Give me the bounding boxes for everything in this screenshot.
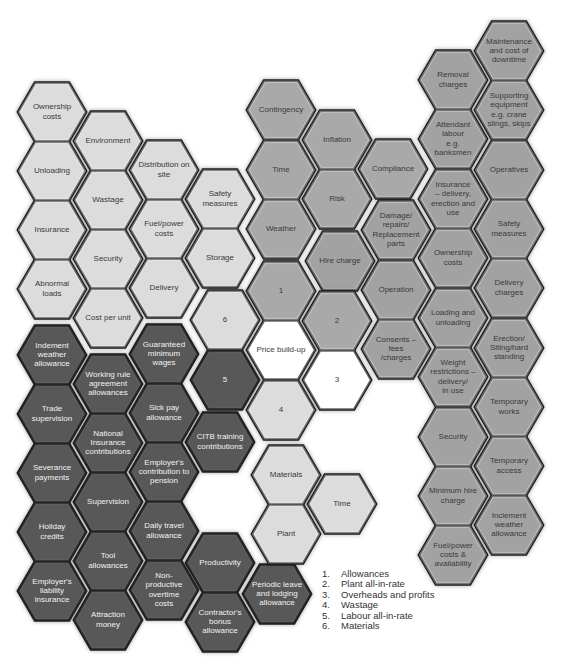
hex-label: Productivity (199, 558, 240, 567)
hex-label: Supervision (87, 497, 129, 506)
hex-label: Compliance (372, 164, 415, 173)
hex-label: Supportingequipmente.g. craneslings, ski… (487, 91, 530, 128)
hex-label: Time (333, 499, 351, 508)
hex-label: 1 (279, 286, 284, 295)
hex-label: Holidaycredits (39, 523, 66, 541)
hex-label: Plant (277, 529, 296, 538)
hex-layer: OwnershipcostsEnvironmentDistribution on… (16, 20, 544, 653)
hex-label: Materials (270, 470, 302, 479)
hex-label: Inclementweatherallowance (491, 511, 527, 538)
hex-label: Severancepayments (33, 464, 72, 482)
hex-label: Loading andunloading (431, 309, 475, 327)
hex-label: Time (272, 165, 290, 174)
hex-label: Storage (206, 253, 235, 262)
hex-label: Security (439, 432, 468, 441)
hex-label: 3 (335, 375, 340, 384)
hex-label: CITB trainingcontributions (197, 433, 244, 451)
hex-label: Daily travelallowance (144, 522, 184, 540)
hex-label: 2 (335, 316, 340, 325)
hex-label: Deliverycharges (495, 279, 524, 297)
hex-label: Risk (329, 194, 346, 203)
hex-label: Attractionmoney (91, 611, 125, 629)
resources-cluster: MaterialsTimePlant (250, 444, 377, 565)
hex-label: Wastage (92, 195, 124, 204)
hex-label: Cost per unit (85, 313, 131, 322)
price-build-up-diagram: OwnershipcostsEnvironmentDistribution on… (0, 0, 563, 672)
hex-label: Insurance (34, 225, 70, 234)
hex-label: Security (94, 254, 123, 263)
hex-label: Operatives (490, 165, 529, 174)
hex-label: Environment (86, 136, 132, 145)
hex-label: Indementweatherallowance (34, 341, 70, 368)
hex-label: 5 (223, 375, 228, 384)
legend-number: 6. (322, 621, 341, 631)
hex-label: 6 (223, 315, 228, 324)
hex-label: Unloading (34, 166, 70, 175)
hex-label: Working ruleagreementallowances (86, 370, 131, 397)
hex-label: Price build-up (257, 345, 306, 354)
hex-label: Delivery (150, 283, 179, 292)
legend: 1.Allowances 2.Plant all-in-rate 3.Overh… (322, 569, 434, 631)
hex-label: Hire charge (319, 256, 361, 265)
hex-label: 4 (279, 405, 284, 414)
hex-label: Contingency (259, 105, 303, 114)
hex-label: Removalcharges (437, 71, 469, 89)
legend-item: 3.Overheads and profits (322, 590, 434, 600)
legend-item: 6.Materials (322, 621, 434, 631)
hex-label: Weather (266, 224, 296, 233)
legend-text: Materials (341, 621, 380, 631)
hex-label: Maintenanceand cost ofdowntime (486, 37, 532, 64)
hex-label: Operation (378, 285, 413, 294)
hex-label: Erection/Siting/hardstanding (490, 334, 528, 361)
hex-label: Sick payallowance (146, 404, 182, 422)
hex-label: Inflation (323, 135, 351, 144)
